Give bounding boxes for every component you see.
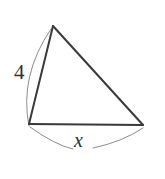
triangle-shape bbox=[29, 26, 143, 125]
base-measure-arc-right bbox=[93, 128, 143, 148]
triangle-base-edge bbox=[29, 124, 143, 125]
side-length-label-4: 4 bbox=[14, 62, 25, 83]
triangle-diagram-svg bbox=[0, 0, 165, 179]
geometry-figure: 4 x bbox=[0, 0, 165, 179]
side-length-label-x: x bbox=[74, 130, 83, 150]
base-measure-arc-left bbox=[30, 127, 73, 149]
